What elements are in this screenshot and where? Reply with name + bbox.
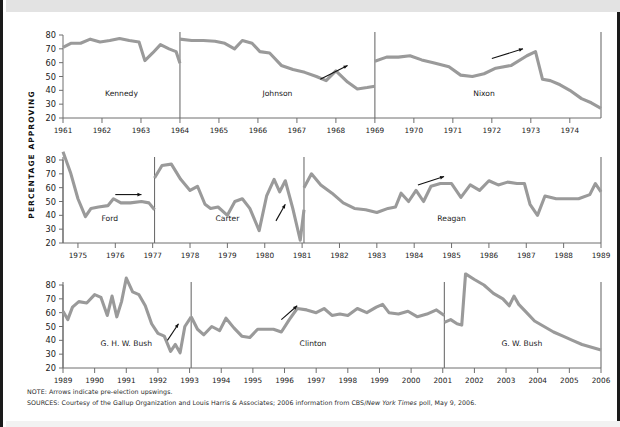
- sources-italic: New York Times: [366, 399, 417, 406]
- x-tick-label: 1980: [255, 251, 274, 260]
- x-tick-label: 1966: [249, 126, 268, 135]
- y-tick-label: 60: [46, 58, 56, 68]
- x-tick-label: 1981: [293, 251, 312, 260]
- x-tick-label: 1968: [327, 126, 346, 135]
- x-tick-label: 2000: [402, 376, 421, 385]
- x-tick-label: 1989: [592, 251, 611, 260]
- x-tick-label: 1996: [275, 376, 294, 385]
- x-tick-label: 1971: [444, 126, 463, 135]
- y-tick-label: 50: [46, 197, 56, 207]
- note-text: NOTE: Arrows indicate pre-election upswi…: [27, 388, 173, 395]
- x-tick-label: 1985: [442, 251, 461, 260]
- x-tick-label: 1973: [522, 126, 541, 135]
- x-tick-label: 1992: [149, 376, 168, 385]
- x-tick-label: 1965: [210, 126, 229, 135]
- approval-line: [304, 174, 601, 216]
- x-tick-label: 1970: [405, 126, 424, 135]
- y-tick-label: 40: [46, 210, 56, 220]
- y-tick-label: 20: [46, 113, 56, 123]
- president-label: G. W. Bush: [501, 339, 542, 348]
- x-tick-label: 1991: [117, 376, 136, 385]
- president-label: G. H. W. Bush: [101, 339, 153, 348]
- x-tick-label: 2005: [560, 376, 579, 385]
- upswing-arrow: [492, 49, 523, 59]
- x-tick-label: 1986: [480, 251, 499, 260]
- x-tick-label: 1974: [561, 126, 580, 135]
- y-tick-label: 20: [46, 363, 56, 373]
- y-tick-label: 80: [46, 30, 56, 40]
- y-tick-label: 70: [46, 294, 56, 304]
- x-tick-label: 2003: [497, 376, 516, 385]
- approval-line: [63, 152, 155, 217]
- y-tick-label: 30: [46, 99, 56, 109]
- president-label: Reagan: [437, 214, 466, 223]
- chart-note: NOTE: Arrows indicate pre-election upswi…: [27, 388, 173, 395]
- president-label: Johnson: [261, 89, 292, 98]
- x-tick-label: 1979: [218, 251, 237, 260]
- x-tick-label: 1977: [143, 251, 162, 260]
- y-tick-label: 80: [46, 155, 56, 165]
- x-tick-label: 1982: [330, 251, 349, 260]
- y-tick-label: 50: [46, 322, 56, 332]
- y-tick-label: 70: [46, 44, 56, 54]
- approval-line: [180, 39, 375, 89]
- y-tick-label: 30: [46, 349, 56, 359]
- x-tick-label: 1964: [171, 126, 190, 135]
- x-tick-label: 1988: [554, 251, 573, 260]
- x-tick-label: 1994: [212, 376, 231, 385]
- chart-row-1: 2030405060708019751976197719781979198019…: [46, 152, 611, 260]
- x-tick-label: 1972: [483, 126, 502, 135]
- x-tick-label: 1961: [54, 126, 73, 135]
- y-tick-label: 60: [46, 308, 56, 318]
- x-tick-label: 1984: [405, 251, 424, 260]
- approval-line: [191, 304, 444, 337]
- approval-line: [155, 164, 304, 240]
- figure-page: PERCENTAGE APPROVING 2030405060708019611…: [0, 0, 620, 427]
- chart-row-0: 2030405060708019611962196319641965196619…: [46, 30, 601, 135]
- upswing-arrowhead: [137, 193, 141, 197]
- approval-line: [63, 38, 180, 63]
- x-tick-label: 2001: [433, 376, 452, 385]
- x-tick-label: 1962: [93, 126, 112, 135]
- upswing-arrowhead: [519, 48, 523, 51]
- x-tick-label: 1997: [307, 376, 326, 385]
- y-tick-label: 80: [46, 280, 56, 290]
- president-label: Ford: [101, 214, 118, 223]
- y-tick-label: 30: [46, 224, 56, 234]
- x-tick-label: 1983: [368, 251, 387, 260]
- x-tick-label: 1999: [370, 376, 389, 385]
- x-tick-label: 1976: [106, 251, 125, 260]
- x-tick-label: 1967: [288, 126, 307, 135]
- x-tick-label: 1998: [339, 376, 358, 385]
- y-tick-label: 20: [46, 238, 56, 248]
- x-tick-label: 2006: [592, 376, 611, 385]
- x-tick-label: 1978: [181, 251, 200, 260]
- y-tick-label: 50: [46, 72, 56, 82]
- approval-line: [375, 52, 601, 109]
- president-label: Nixon: [473, 89, 495, 98]
- chart-sources: SOURCES: Courtesy of the Gallup Organiza…: [27, 399, 476, 406]
- president-label: Kennedy: [105, 89, 138, 98]
- x-tick-label: 2004: [528, 376, 547, 385]
- x-tick-label: 1990: [85, 376, 104, 385]
- y-tick-label: 70: [46, 169, 56, 179]
- x-tick-label: 1969: [366, 126, 385, 135]
- y-tick-label: 40: [46, 335, 56, 345]
- x-tick-label: 2002: [465, 376, 484, 385]
- x-tick-label: 1995: [244, 376, 263, 385]
- x-tick-label: 1975: [69, 251, 88, 260]
- sources-prefix: SOURCES: Courtesy of the Gallup Organiza…: [27, 399, 366, 406]
- x-tick-label: 1989: [54, 376, 73, 385]
- sources-suffix: poll, May 9, 2006.: [417, 399, 476, 406]
- x-tick-label: 1987: [517, 251, 536, 260]
- x-tick-label: 1963: [132, 126, 151, 135]
- upswing-arrowhead: [440, 176, 444, 179]
- approval-ratings-chart: 2030405060708019611962196319641965196619…: [3, 0, 620, 427]
- chart-row-2: 2030405060708019891990199119921993199419…: [46, 274, 611, 385]
- y-tick-label: 60: [46, 183, 56, 193]
- president-label: Clinton: [300, 339, 327, 348]
- x-tick-label: 1993: [180, 376, 199, 385]
- y-tick-label: 40: [46, 85, 56, 95]
